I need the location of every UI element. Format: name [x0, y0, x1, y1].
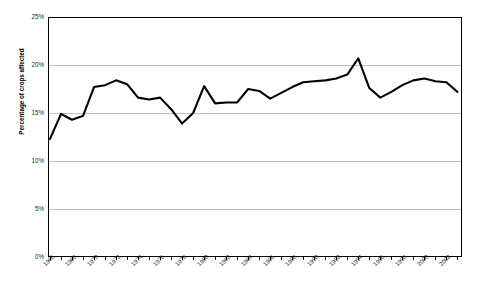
series-line — [50, 58, 457, 139]
x-tick — [215, 257, 216, 260]
x-tick — [457, 257, 458, 260]
x-tick — [61, 257, 62, 260]
line-chart: 25% 20% 15% 10% 5% 0% Percentage of crop… — [0, 0, 484, 299]
x-tick — [149, 257, 150, 260]
x-tick — [325, 257, 326, 260]
x-tick — [83, 257, 84, 260]
x-tick — [391, 257, 392, 260]
x-tick — [171, 257, 172, 260]
x-tick — [281, 257, 282, 260]
x-tick — [369, 257, 370, 260]
x-tick — [347, 257, 348, 260]
x-tick — [303, 257, 304, 260]
x-tick — [193, 257, 194, 260]
x-tick — [105, 257, 106, 260]
x-tick — [259, 257, 260, 260]
x-tick — [435, 257, 436, 260]
x-tick — [237, 257, 238, 260]
x-tick — [413, 257, 414, 260]
x-tick — [127, 257, 128, 260]
